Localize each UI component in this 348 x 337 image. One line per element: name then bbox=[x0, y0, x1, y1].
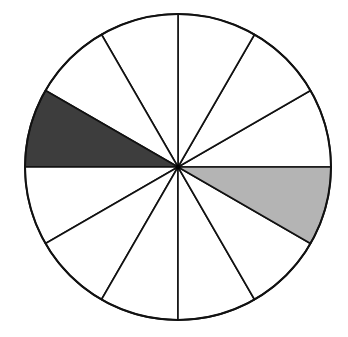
circle-sector-diagram bbox=[0, 0, 348, 337]
center-point bbox=[176, 165, 180, 169]
